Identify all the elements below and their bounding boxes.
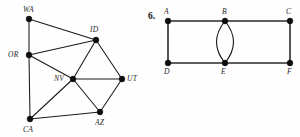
vertex-label-f: F [286, 67, 292, 76]
multigraph-edges [168, 21, 290, 63]
vertex-label-d: D [163, 67, 170, 76]
edge-az-ca [30, 112, 100, 119]
vertex-az [97, 109, 103, 115]
vertex-label-wa: WA [23, 5, 34, 14]
figure-number-label: 6. [148, 11, 155, 21]
vertex-label-az: AZ [94, 118, 105, 127]
vertex-label-or: OR [8, 50, 19, 59]
vertex-ut [119, 76, 125, 82]
vertex-label-ca: CA [23, 125, 33, 134]
multigraph-vertices [165, 18, 293, 66]
multigraph-figure-number: 6. [148, 11, 155, 21]
vertex-c [287, 18, 293, 24]
vertex-wa [26, 16, 32, 22]
figure-root: WAORIDNVUTAZCA ABCDEF 6. [0, 0, 300, 137]
edge-ut-az [100, 79, 122, 112]
vertex-label-c: C [286, 7, 292, 16]
vertex-a [165, 18, 171, 24]
vertex-label-b: B [222, 7, 227, 16]
edge-nv-ca [30, 79, 73, 119]
vertex-e [222, 60, 228, 66]
vertex-label-e: E [220, 67, 226, 76]
vertex-id [93, 37, 99, 43]
edge-or-id [29, 40, 96, 55]
edge-b-e [217, 21, 226, 63]
edge-nv-az [73, 79, 100, 112]
figures-canvas: WAORIDNVUTAZCA ABCDEF 6. [0, 0, 300, 137]
vertex-label-a: A [163, 7, 169, 16]
vertex-d [165, 60, 171, 66]
edge-wa-id [29, 19, 96, 40]
vertex-label-nv: NV [53, 74, 65, 83]
edge-id-ut [96, 40, 122, 79]
edge-or-nv [29, 55, 73, 79]
vertex-nv [70, 76, 76, 82]
state-graph-vertices [26, 16, 125, 122]
vertex-label-ut: UT [127, 74, 138, 83]
edge-or-ca [29, 55, 30, 119]
multigraph-labels: ABCDEF [163, 7, 292, 76]
edge-id-nv [73, 40, 96, 79]
vertex-b [222, 18, 228, 24]
vertex-ca [27, 116, 33, 122]
vertex-f [287, 60, 293, 66]
vertex-label-id: ID [89, 25, 99, 34]
state-graph-edges [29, 19, 122, 119]
vertex-or [26, 52, 32, 58]
edge-b-e [225, 21, 234, 63]
